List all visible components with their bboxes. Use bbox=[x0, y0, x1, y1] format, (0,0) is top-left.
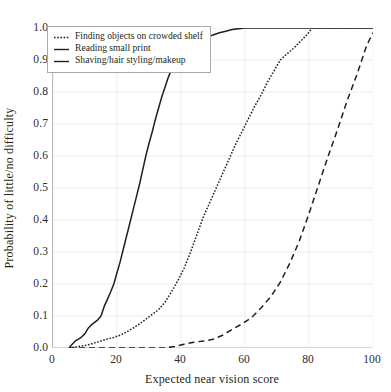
x-tick-label: 0 bbox=[28, 354, 76, 366]
plot-svg bbox=[53, 28, 373, 348]
chart-figure: 0.00.10.20.30.40.50.60.70.80.91.0 Probab… bbox=[0, 0, 391, 392]
legend-item-label: Finding objects on crowded shelf bbox=[75, 31, 203, 42]
x-tick-label: 40 bbox=[156, 354, 204, 366]
x-tick-label: 100 bbox=[348, 354, 391, 366]
legend-item-label: Reading small print bbox=[75, 43, 151, 54]
legend-item-label: Shaving/hair styling/makeup bbox=[75, 55, 186, 66]
x-tick-label: 20 bbox=[92, 354, 140, 366]
x-tick-label: 80 bbox=[284, 354, 332, 366]
legend-line-sample-solid bbox=[53, 56, 70, 67]
legend-line-sample-long-dashed bbox=[53, 44, 70, 55]
grid-lines bbox=[53, 28, 373, 348]
chart-legend: Finding objects on crowded shelfReading … bbox=[47, 26, 211, 73]
legend-item: Finding objects on crowded shelf bbox=[53, 31, 203, 42]
y-axis-title-wrapper: Probability of little/no difficulty bbox=[0, 28, 18, 348]
series-line-1 bbox=[69, 33, 373, 348]
legend-item: Shaving/hair styling/makeup bbox=[53, 55, 203, 66]
y-axis-title: Probability of little/no difficulty bbox=[2, 107, 17, 268]
x-axis-title: Expected near vision score bbox=[52, 372, 372, 387]
legend-item: Reading small print bbox=[53, 43, 203, 54]
x-tick-label: 60 bbox=[220, 354, 268, 366]
x-axis-tick-labels: 020406080100 bbox=[52, 354, 372, 374]
plot-area bbox=[52, 28, 372, 348]
legend-line-sample-dotted bbox=[53, 32, 70, 43]
